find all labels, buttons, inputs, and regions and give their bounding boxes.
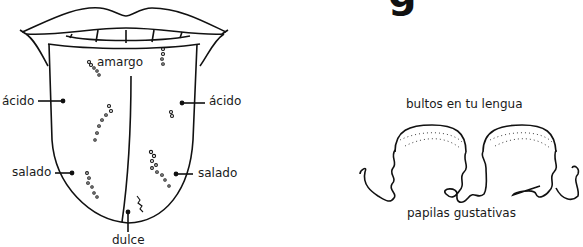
label-salado-left: salado (12, 165, 51, 179)
papillae-illustration (360, 125, 578, 202)
label-salado-right: salado (198, 166, 237, 180)
label-bultos: bultos en tu lengua (406, 97, 523, 111)
tongue-illustration (38, 44, 205, 232)
label-amargo: amargo (97, 55, 143, 69)
label-acido-left: ácido (2, 94, 34, 108)
label-papilas: papilas gustativas (407, 206, 516, 220)
label-dulce: dulce (112, 233, 145, 247)
label-acido-right: ácido (209, 94, 241, 108)
